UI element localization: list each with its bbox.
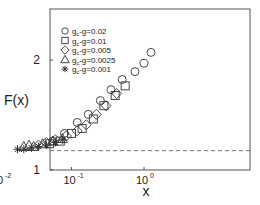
y-axis-label: F(x) (4, 92, 29, 108)
legend-item: gc-g=0.001 (62, 65, 112, 75)
x-tick-exponent: -1 (78, 172, 84, 179)
x-tick-label: 10 (0, 174, 3, 186)
legend-label: gc-g=0.005 (72, 46, 112, 56)
legend-item: gc-g=0.01 (62, 37, 107, 47)
legend: gc-g=0.02gc-g=0.01gc-g=0.005gc-g=0.0025g… (61, 27, 116, 75)
series-diamond (33, 89, 121, 151)
legend-item: gc-g=0.0025 (61, 55, 116, 65)
x-tick-exponent: 0 (150, 172, 154, 179)
y-tick-label: 1 (33, 163, 40, 177)
legend-label: gc-g=0.01 (72, 37, 107, 47)
x-tick-exponent: -2 (5, 172, 11, 179)
x-axis-label: x (143, 183, 150, 199)
scatter-chart: 10-210-1100 12 F(x) x gc-g=0.02gc-g=0.01… (0, 0, 260, 205)
legend-label: gc-g=0.0025 (72, 56, 116, 66)
legend-item: gc-g=0.02 (62, 27, 107, 37)
legend-label: gc-g=0.02 (72, 27, 107, 37)
legend-label: gc-g=0.001 (72, 65, 112, 75)
y-tick-label: 2 (33, 53, 40, 67)
x-tick-label: 10 (63, 174, 75, 186)
legend-item: gc-g=0.005 (61, 46, 112, 56)
